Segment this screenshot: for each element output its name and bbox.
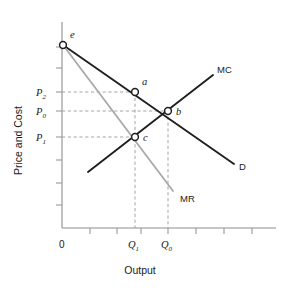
curve-label-mr: MR [180, 193, 195, 204]
x-axis-ticks [90, 228, 252, 234]
point-marker-e [60, 42, 67, 49]
x-tick-label-q1: Q1 [128, 239, 139, 253]
point-marker-a [132, 89, 139, 96]
point-label-b: b [176, 106, 181, 117]
y-tick-label-p1: P1 [35, 132, 46, 146]
demand-curve [63, 45, 234, 164]
point-label-c: c [143, 132, 148, 143]
chart-axes [62, 22, 276, 228]
point-marker-b [165, 108, 172, 115]
point-marker-c [132, 134, 139, 141]
y-axis-value-labels: P2 P0 P1 [35, 87, 46, 146]
marginal-cost-curve [88, 75, 213, 172]
y-tick-label-p2: P2 [35, 87, 46, 101]
economics-chart-figure: e a b c MC D MR P2 P0 P1 Q1 Q0 0 Price a… [0, 0, 284, 290]
x-axis-title: Output [124, 264, 156, 276]
y-axis-title: Price and Cost [12, 106, 24, 175]
origin-label: 0 [59, 239, 65, 250]
y-axis-ticks [56, 47, 62, 205]
point-label-a: a [142, 76, 147, 87]
curve-label-mc: MC [217, 64, 232, 75]
chart-point-markers [60, 42, 172, 141]
chart-point-labels: e a b c [70, 29, 181, 143]
x-axis-value-labels: Q1 Q0 [128, 239, 173, 253]
curve-label-d: D [239, 161, 246, 172]
guide-lines [62, 92, 168, 228]
chart-curves [63, 45, 234, 191]
x-tick-label-q0: Q0 [161, 239, 173, 253]
point-label-e: e [70, 29, 75, 40]
y-tick-label-p0: P0 [35, 106, 46, 120]
